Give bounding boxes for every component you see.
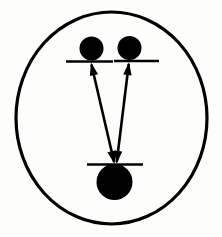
state-node-upper-left bbox=[80, 37, 104, 61]
arrowhead bbox=[90, 63, 98, 77]
transition-right bbox=[114, 62, 132, 164]
transition-shaft bbox=[117, 64, 129, 162]
state-node-lower-center bbox=[97, 164, 133, 200]
arrowhead bbox=[114, 151, 122, 164]
energy-levels-group bbox=[66, 61, 159, 165]
state-node-upper-right bbox=[118, 36, 142, 60]
energy-level-diagram bbox=[0, 0, 222, 237]
arrowhead bbox=[123, 62, 131, 75]
transition-shaft bbox=[91, 64, 114, 162]
figure-container: Energy level transition schematic bbox=[0, 0, 222, 237]
transitions-group bbox=[90, 62, 132, 164]
transition-left bbox=[90, 63, 116, 165]
